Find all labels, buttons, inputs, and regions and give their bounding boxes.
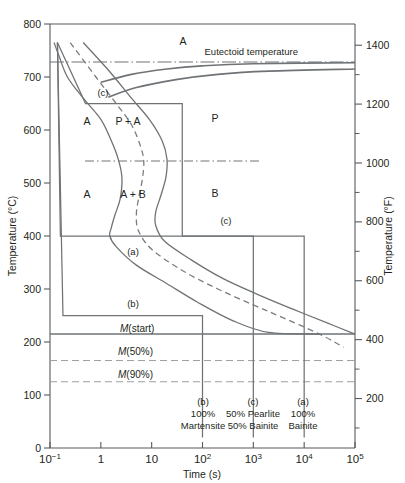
martensite-label: M(50%) (118, 346, 153, 357)
y-axis-right-title: Temperature (°F) (382, 196, 394, 275)
bottom-annotation-line: (b) (197, 396, 209, 407)
bottom-annotation-line: Bainite (288, 420, 317, 431)
ttt-diagram-figure: 0100200300400500600700800 20040060080010… (0, 0, 405, 483)
y-tick-label-left: 200 (23, 336, 41, 348)
eutectoid-temperature-label: Eutectoid temperature (205, 46, 298, 57)
phase-region-label: A (83, 188, 90, 200)
y-tick-label-right: 1400 (366, 39, 390, 51)
x-tick-label: 10 (145, 453, 158, 465)
y-tick-label-right: 1200 (366, 98, 390, 110)
bottom-annotation-line: (c) (247, 396, 258, 407)
cooling-path-label: (c) (220, 215, 231, 226)
cooling-path-label: (a) (127, 246, 139, 257)
y-tick-label-left: 600 (23, 124, 41, 136)
x-axis-title: Time (s) (183, 468, 221, 480)
y-tick-label-left: 700 (23, 71, 41, 83)
bottom-annotation-line: 50% Pearlite (226, 408, 280, 419)
bottom-annotation-line: 50% Bainite (228, 420, 279, 431)
bottom-annotation-line: (a) (297, 396, 309, 407)
phase-region-label: B (211, 187, 218, 199)
y-tick-label-right: 400 (366, 333, 384, 345)
phase-region-label: A (179, 35, 186, 47)
phase-region-label: P + A (115, 115, 140, 127)
y-tick-label-left: 400 (23, 230, 41, 242)
y-tick-label-left: 500 (23, 177, 41, 189)
ttt-diagram-svg: 0100200300400500600700800 20040060080010… (0, 0, 405, 483)
bottom-annotation-line: 100% (291, 408, 316, 419)
bottom-annotation-line: 100% (191, 408, 216, 419)
y-tick-label-right: 1000 (366, 157, 390, 169)
y-tick-label-left: 300 (23, 283, 41, 295)
x-tick-label: 1 (98, 453, 104, 465)
y-tick-label-left: 800 (23, 18, 41, 30)
phase-region-label: P (211, 112, 218, 124)
y-tick-label-left: 100 (23, 389, 41, 401)
y-tick-label-right: 200 (366, 392, 384, 404)
martensite-label: M(start) (120, 323, 154, 334)
bottom-result-annotations: (b)100%Martensite(c)50% Pearlite50% Bain… (181, 396, 318, 431)
y-tick-label-left: 0 (35, 442, 41, 454)
y-axis-left-title: Temperature (°C) (6, 196, 18, 277)
cooling-path-label: (c) (97, 87, 108, 98)
bottom-annotation-line: Martensite (181, 420, 225, 431)
phase-region-label: A (83, 115, 90, 127)
martensite-label: M(90%) (118, 369, 153, 380)
cooling-path-label: (b) (127, 298, 139, 309)
phase-region-label: A + B (120, 188, 145, 200)
martensite-line-labels: M(start)M(50%)M(90%) (118, 323, 154, 380)
